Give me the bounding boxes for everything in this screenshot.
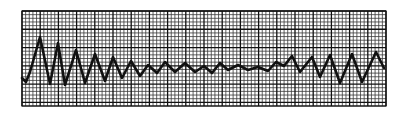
ecg-strip [0, 0, 405, 115]
